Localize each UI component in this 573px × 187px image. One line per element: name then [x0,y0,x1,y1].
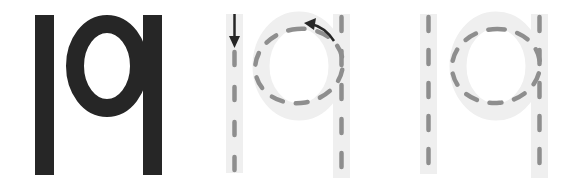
panel-solid-letters [35,15,162,175]
letter-tracing-worksheet: lq [0,0,573,187]
panel-guided-tracing [226,14,350,178]
panel-practice-tracing [420,14,548,178]
solid-letter-q [75,15,162,175]
solid-letter-l [35,15,54,175]
